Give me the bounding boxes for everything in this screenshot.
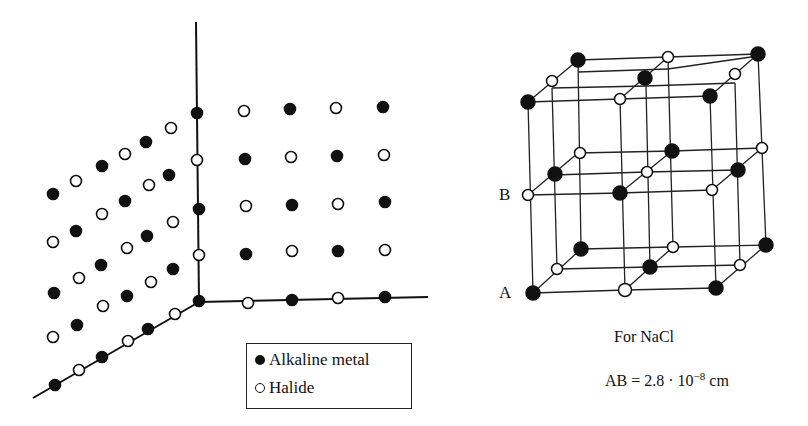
formula-prefix: AB = 2.8 · 10: [605, 372, 694, 389]
legend-label: Alkaline metal: [269, 350, 370, 370]
formula-unit: cm: [705, 372, 729, 389]
filled-circle-icon: [255, 355, 265, 365]
caption-title: For NaCl: [614, 328, 674, 346]
legend-item-alkaline-metal: Alkaline metal: [255, 350, 370, 370]
legend-item-halide: Halide: [255, 378, 314, 398]
legend: Alkaline metal Halide: [246, 343, 412, 409]
caption-formula: AB = 2.8 · 10−8 cm: [605, 370, 729, 390]
point-label-a: A: [499, 283, 511, 303]
hollow-circle-icon: [255, 383, 265, 393]
point-label-b: B: [499, 185, 510, 205]
formula-exponent: −8: [694, 370, 706, 382]
legend-label: Halide: [269, 378, 314, 398]
lattice-axes: [33, 22, 428, 398]
